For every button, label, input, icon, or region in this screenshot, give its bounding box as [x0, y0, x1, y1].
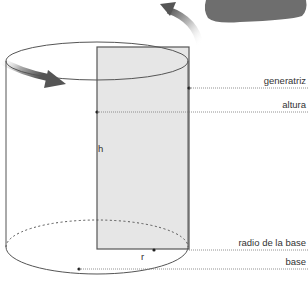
- radius-symbol: r: [141, 251, 144, 262]
- height-symbol: h: [98, 143, 103, 154]
- base-label: base: [285, 256, 306, 267]
- altura-label: altura: [282, 99, 306, 110]
- generatriz-label: generatriz: [264, 75, 306, 86]
- radio-point: [152, 248, 155, 251]
- radio-label: radio de la base: [238, 237, 306, 248]
- bottom-base-front: [6, 247, 188, 274]
- rotation-axis-blob-icon: [205, 0, 307, 23]
- cylinder-diagram: generatriz altura radio de la base base …: [0, 0, 308, 283]
- rotation-arrow-top-icon: [160, 2, 200, 45]
